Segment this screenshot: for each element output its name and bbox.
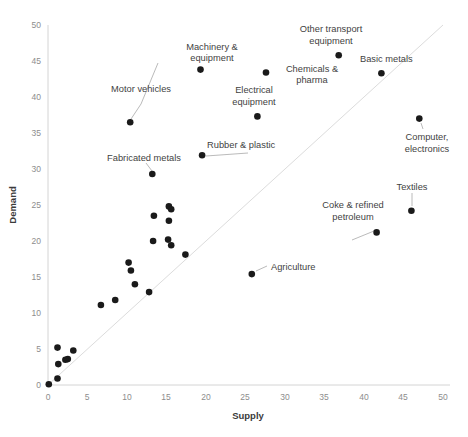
label-fabricated-metals: Fabricated metals [107,153,181,163]
data-point[interactable] [182,251,189,258]
data-point[interactable] [70,347,77,354]
label-basic-metals: Basic metals [360,54,413,64]
label-coke-petroleum-line2: petroleum [332,212,374,222]
y-axis-title: Demand [7,186,18,224]
x-tick-label: 50 [438,392,448,402]
leader-line-coke-petroleum [352,231,374,240]
x-tick-label: 45 [398,392,408,402]
data-point[interactable] [166,218,173,225]
leader-line-computer-electronics [421,123,423,129]
x-tick-label: 10 [122,392,132,402]
data-point-electrical-equipment[interactable] [254,113,261,120]
label-other-transport-line2: equipment [309,36,353,46]
data-point[interactable] [46,381,53,388]
y-tick-label: 0 [36,380,41,390]
data-point[interactable] [150,238,157,245]
data-point-other-transport-equipment[interactable] [335,52,342,59]
data-point-motor-vehicles[interactable] [127,119,134,126]
x-axis-title: Supply [232,410,264,421]
leader-line-fabricated-metals [146,163,152,171]
y-tick-label: 40 [32,92,42,102]
y-tick-label: 10 [32,308,42,318]
plot-area: 50 45 40 35 30 25 20 15 10 5 0 0 5 10 15… [0,0,468,437]
data-point[interactable] [165,236,172,243]
data-point-textiles[interactable] [408,208,415,215]
leader-line-rubber-plastic [206,153,248,156]
x-tick-label: 5 [85,392,90,402]
label-agriculture: Agriculture [271,262,315,272]
data-point-chemicals-pharma[interactable] [263,69,270,76]
x-tick-label: 15 [161,392,171,402]
label-motor-vehicles: Motor vehicles [111,84,171,94]
data-point[interactable] [112,297,119,304]
data-point[interactable] [146,289,153,296]
x-tick-label: 20 [201,392,211,402]
y-tick-label: 5 [36,344,41,354]
data-point-fabricated-metals[interactable] [149,171,156,178]
y-tick-label: 25 [32,200,42,210]
y-tick-label: 20 [32,236,42,246]
x-tick-label: 0 [46,392,51,402]
y-tick-label: 45 [32,56,42,66]
data-point[interactable] [128,267,135,274]
y-tick-label: 15 [32,272,42,282]
label-electrical-equipment-line1: Electrical [235,85,273,95]
data-point[interactable] [168,206,175,213]
y-tick-label: 50 [32,20,42,30]
diagonal-reference-line [48,25,443,385]
data-point[interactable] [54,344,61,351]
label-textiles: Textiles [397,182,428,192]
label-computer-electronics-line1: Computer, [406,132,449,142]
data-point[interactable] [62,357,69,364]
data-point-computer-electronics[interactable] [416,115,423,122]
label-electrical-equipment-line2: equipment [232,97,276,107]
label-chemicals-pharma-line1: Chemicals & [286,64,339,74]
data-point[interactable] [132,281,139,288]
label-machinery-equipment-line2: equipment [190,53,234,63]
x-tick-label: 30 [280,392,290,402]
data-point-agriculture[interactable] [249,271,256,278]
x-tick-label: 25 [240,392,250,402]
label-rubber-plastic: Rubber & plastic [207,140,276,150]
y-tick-label: 30 [32,164,42,174]
x-tick-label: 35 [319,392,329,402]
x-tick-label: 40 [359,392,369,402]
scatter-chart: 50 45 40 35 30 25 20 15 10 5 0 0 5 10 15… [0,0,468,437]
label-coke-petroleum-line1: Coke & refined [322,200,384,210]
leader-line-agriculture [256,266,267,271]
label-other-transport-line1: Other transport [300,24,363,34]
label-machinery-equipment-line1: Machinery & [186,42,238,52]
data-point-rubber-plastic[interactable] [199,152,206,159]
label-computer-electronics-line2: electronics [405,144,450,154]
data-point[interactable] [151,213,158,220]
label-chemicals-pharma-line2: pharma [296,75,328,85]
data-point[interactable] [125,259,132,266]
data-point-coke-refined-petroleum[interactable] [373,229,380,236]
data-point[interactable] [54,375,61,382]
data-point[interactable] [98,302,105,309]
data-point-basic-metals[interactable] [378,70,385,77]
data-point[interactable] [55,361,62,368]
y-tick-label: 35 [32,128,42,138]
data-point[interactable] [168,242,175,249]
data-point-machinery-equipment[interactable] [197,66,204,73]
